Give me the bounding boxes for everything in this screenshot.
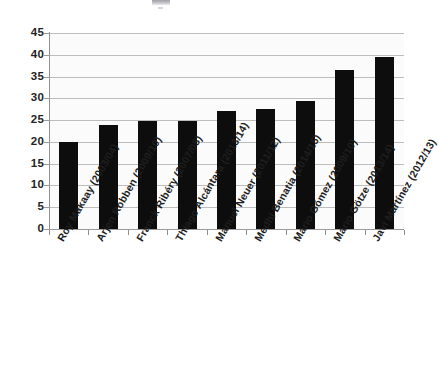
y-tick-label-30: 30 [4,92,44,104]
x-axis-category-labels: Roy Makaay (2003/04)Arjen Robben (2009/1… [0,229,424,388]
y-tick-label-5: 5 [4,201,44,213]
y-tick-mark-15 [44,164,50,165]
cropped-title-remnant [152,0,170,5]
y-tick-mark-45 [44,33,50,34]
gridline-45 [49,33,404,34]
y-tick-label-40: 40 [4,49,44,61]
y-tick-mark-25 [44,120,50,121]
y-tick-mark-20 [44,142,50,143]
gridline-40 [49,55,404,56]
y-tick-label-25: 25 [4,114,44,126]
y-tick-label-20: 20 [4,136,44,148]
y-tick-mark-40 [44,55,50,56]
y-tick-label-45: 45 [4,27,44,39]
y-tick-label-15: 15 [4,158,44,170]
y-tick-mark-35 [44,77,50,78]
y-tick-mark-30 [44,98,50,99]
y-tick-mark-10 [44,185,50,186]
cropped-title-remnant-tail [158,7,163,9]
y-tick-mark-5 [44,207,50,208]
y-tick-label-10: 10 [4,179,44,191]
y-axis-line [49,32,50,230]
y-tick-label-35: 35 [4,71,44,83]
